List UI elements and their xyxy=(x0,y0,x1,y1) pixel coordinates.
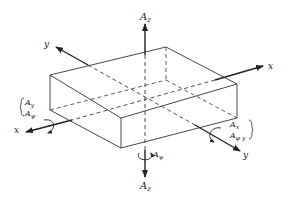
left-translational-label: Ay xyxy=(24,98,35,109)
x-axis-left-arrow xyxy=(26,120,72,132)
x-right-label: x xyxy=(268,61,273,71)
rotation-arrows xyxy=(44,120,221,160)
box-top-face xyxy=(50,47,237,118)
x-axis xyxy=(26,66,263,132)
right-brace xyxy=(249,120,253,139)
x-left-label: x xyxy=(14,125,19,135)
y-front-label: y xyxy=(242,150,249,160)
edge-bottom-left xyxy=(50,110,121,148)
left-brace xyxy=(20,98,24,116)
z-bottom-label: Az xyxy=(139,180,151,193)
edge-bottom-right xyxy=(121,118,237,148)
x-axis-right-arrow xyxy=(215,66,263,80)
y-axis xyxy=(56,47,240,151)
box-hidden-edges xyxy=(50,47,237,118)
bottom-rotation-label: Aψ xyxy=(152,150,164,161)
right-translational-label: Ax xyxy=(229,120,240,130)
y-axis-back-arrow xyxy=(56,47,88,65)
block-diagram: Az Az y y x x Ay Aψ Ax Aφ y Aψ xyxy=(0,0,283,198)
hidden-edge-back-left xyxy=(50,80,166,110)
hidden-edge-back-right xyxy=(166,80,237,118)
x-axis-hidden xyxy=(72,80,215,120)
left-rotational-label: Aψ xyxy=(24,109,36,120)
y-axis-hidden xyxy=(88,65,195,125)
right-rotational-label: Aφ y xyxy=(229,131,246,142)
y-back-label: y xyxy=(43,39,50,49)
z-top-label: Az xyxy=(139,11,151,24)
